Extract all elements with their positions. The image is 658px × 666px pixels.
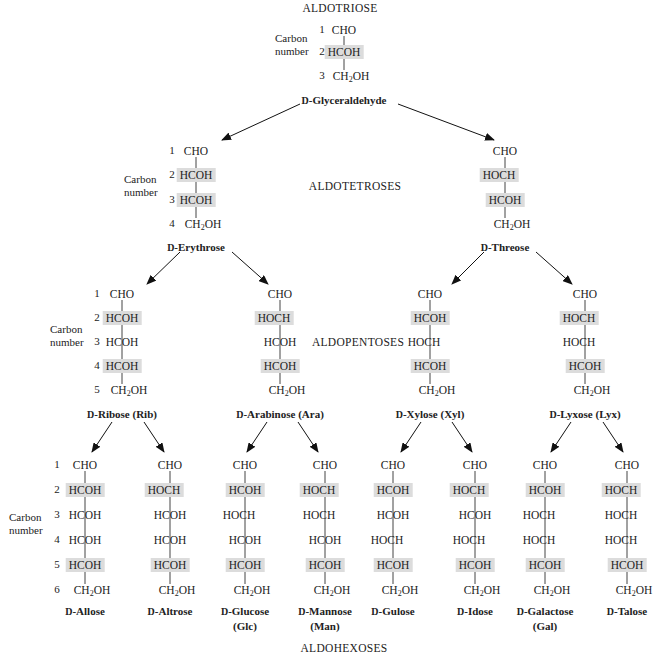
carbon-number: 2 — [54, 483, 60, 495]
sugar-name-xylose: D-Xylose (Xyl) — [396, 407, 465, 422]
aldose-family-tree-diagram: ALDOTRIOSE ALDOTETROSES ALDOPENTOSES ALD… — [0, 0, 658, 666]
carbon-group: CHO — [233, 458, 257, 472]
carbon-group: HCOH — [66, 558, 105, 572]
carbon-number: 3 — [54, 508, 60, 520]
carbon-number: 3 — [319, 69, 325, 81]
carbon-group: HCOH — [374, 558, 413, 572]
sugar-name-talose: D-Talose — [607, 604, 647, 619]
sugar-name-ribose: D-Ribose (Rib) — [87, 407, 157, 422]
carbon-group: CH2OH — [464, 583, 501, 601]
carbon-group: HCOH — [103, 311, 142, 325]
carbon-group: CH2OH — [333, 69, 370, 87]
carbon-group: CH2OH — [534, 583, 571, 601]
carbon-group: HCOH — [103, 359, 142, 373]
carbon-group: HOCH — [480, 168, 519, 182]
carbon-group: HCOH — [374, 483, 413, 497]
arrow-arabinose-to-mannose — [298, 422, 318, 452]
sugar-name-glucose: D-Glucose(Glc) — [221, 604, 269, 634]
heading-aldopentoses: ALDOPENTOSES — [312, 336, 404, 348]
carbon-group: HCOH — [226, 483, 265, 497]
carbon-group: HOCH — [560, 311, 599, 325]
carbon-group: HOCH — [523, 533, 556, 547]
arrow-glyceraldehyde-to-threose — [398, 104, 494, 140]
carbon-group: HCOH — [325, 45, 364, 59]
carbon-group: HOCH — [408, 335, 441, 349]
carbon-group: CH2OH — [111, 383, 148, 401]
carbon-number: 3 — [94, 335, 100, 347]
carbon-group: HCOH — [306, 558, 345, 572]
carbon-group: HCOH — [154, 533, 187, 547]
heading-aldohexoses: ALDOHEXOSES — [301, 642, 388, 654]
carbon-group: HOCH — [223, 508, 256, 522]
carbon-group: HOCH — [371, 533, 404, 547]
arrow-ribose-to-allose — [92, 422, 112, 452]
sugar-name-glyceraldehyde: D-Glyceraldehyde — [302, 93, 387, 108]
carbon-group: HCOH — [226, 558, 265, 572]
carbon-group: HCOH — [526, 558, 565, 572]
carbon-group: HOCH — [453, 533, 486, 547]
carbon-group: HCOH — [459, 508, 492, 522]
carbon-group: HCOH — [608, 558, 647, 572]
carbon-group: CH2OH — [185, 217, 222, 235]
carbon-group: CHO — [268, 287, 292, 301]
carbon-group: HCOH — [411, 311, 450, 325]
carbon-group: CH2OH — [494, 217, 531, 235]
carbon-group: CH2OH — [74, 583, 111, 601]
carbon-number: 2 — [94, 311, 100, 323]
carbon-group: CHO — [533, 458, 557, 472]
sugar-name-altrose: D-Altrose — [148, 604, 193, 619]
carbon-group: HCOH — [69, 508, 102, 522]
sugar-name-galactose: D-Galactose(Gal) — [517, 604, 574, 634]
carbon-number: 6 — [54, 583, 60, 595]
sugar-name-gulose: D-Gulose — [371, 604, 414, 619]
carbon-group: HCOH — [264, 335, 297, 349]
carbon-group: CHO — [381, 458, 405, 472]
carbon-group: CH2OH — [616, 583, 653, 601]
sugar-name-idose: D-Idose — [457, 604, 493, 619]
carbon-group: HCOH — [566, 359, 605, 373]
carbon-group: CHO — [158, 458, 182, 472]
carbon-number: 2 — [169, 168, 175, 180]
carbon-group: CH2OH — [159, 583, 196, 601]
arrow-arabinose-to-glucose — [247, 422, 267, 452]
arrow-lyxose-to-galactose — [551, 422, 571, 452]
carbon-group: HCOH — [486, 193, 525, 207]
carbon-group: CHO — [418, 287, 442, 301]
carbon-group: CHO — [110, 287, 134, 301]
carbon-group: CHO — [573, 287, 597, 301]
carbon-number: 1 — [319, 23, 325, 35]
carbon-group: HCOH — [66, 483, 105, 497]
arrow-lyxose-to-talose — [603, 422, 623, 452]
carbon-group: HCOH — [177, 193, 216, 207]
carbon-group: HCOH — [526, 483, 565, 497]
carbon-group: HOCH — [602, 483, 641, 497]
arrow-glyceraldehyde-to-erythrose — [222, 104, 300, 140]
arrow-threose-to-lyxose — [536, 252, 572, 284]
carbon-group: HCOH — [456, 558, 495, 572]
carbon-group: CHO — [184, 144, 208, 158]
heading-aldotetroses: ALDOTETROSES — [309, 180, 401, 192]
carbon-number-label: Carbonnumber — [50, 323, 84, 349]
arrow-xylose-to-idose — [452, 422, 472, 452]
carbon-number: 1 — [169, 144, 175, 156]
carbon-group: CH2OH — [234, 583, 271, 601]
carbon-number-label: Carbonnumber — [124, 173, 158, 199]
carbon-group: CHO — [615, 458, 639, 472]
carbon-number: 4 — [94, 359, 100, 371]
carbon-group: CHO — [463, 458, 487, 472]
sugar-name-mannose: D-Mannose(Man) — [298, 604, 352, 634]
carbon-group: HCOH — [309, 533, 342, 547]
carbon-group: HOCH — [523, 508, 556, 522]
carbon-group: HCOH — [261, 359, 300, 373]
arrow-ribose-to-altrose — [144, 422, 164, 452]
sugar-name-allose: D-Allose — [65, 604, 105, 619]
carbon-group: CHO — [493, 144, 517, 158]
carbon-group: HCOH — [151, 558, 190, 572]
carbon-group: HOCH — [145, 483, 184, 497]
carbon-group: HOCH — [563, 335, 596, 349]
sugar-name-erythrose: D-Erythrose — [167, 240, 225, 255]
arrow-threose-to-xylose — [452, 252, 484, 284]
carbon-group: HCOH — [154, 508, 187, 522]
carbon-number: 2 — [319, 45, 325, 57]
carbon-group: CH2OH — [574, 383, 611, 401]
